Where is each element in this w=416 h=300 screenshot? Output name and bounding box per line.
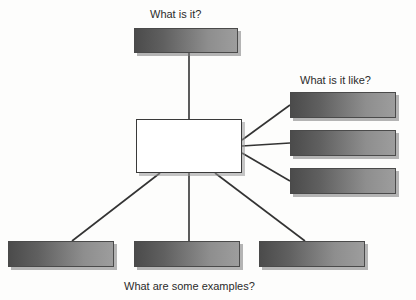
- example-box-2[interactable]: [134, 241, 240, 267]
- connector-center-to-example-1: [72, 173, 160, 241]
- concept-map-diagram: What is it? What is it like? What are so…: [0, 0, 416, 300]
- connector-center-to-characteristic-3: [242, 153, 290, 181]
- definition-box[interactable]: [134, 28, 238, 53]
- caption-what-are-some-examples: What are some examples?: [124, 280, 255, 293]
- caption-what-is-it: What is it?: [150, 8, 201, 21]
- characteristic-box-2[interactable]: [290, 130, 396, 156]
- caption-what-is-it-like: What is it like?: [300, 74, 371, 87]
- characteristic-box-3[interactable]: [290, 168, 396, 194]
- example-box-3[interactable]: [259, 241, 365, 267]
- connector-center-to-characteristic-1: [242, 105, 290, 140]
- center-concept-node[interactable]: [136, 119, 242, 173]
- connector-center-to-characteristic-2: [242, 143, 290, 146]
- example-box-1[interactable]: [8, 241, 114, 267]
- characteristic-box-1[interactable]: [290, 92, 396, 118]
